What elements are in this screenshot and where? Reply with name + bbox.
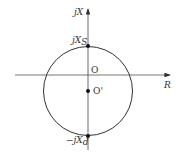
r-axis-label: R: [163, 80, 171, 90]
center-label: O': [93, 86, 103, 96]
neg-jxd-label: −jXd: [66, 135, 89, 147]
origin-label: O: [91, 65, 98, 75]
impedance-circle-diagram: jX R jXS O O' −jXd: [0, 0, 183, 160]
jxs-label: jXS: [70, 35, 87, 47]
jx-axis-label: jX: [72, 7, 84, 17]
point-center: [86, 89, 90, 93]
